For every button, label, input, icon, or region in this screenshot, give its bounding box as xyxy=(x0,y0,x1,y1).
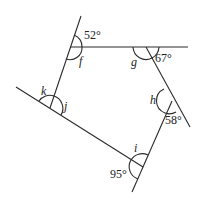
line-left-upper xyxy=(50,16,81,108)
label-67: 67° xyxy=(155,51,172,65)
label-g: g xyxy=(131,55,137,69)
label-95: 95° xyxy=(110,167,127,181)
line-bottom-long xyxy=(16,87,143,167)
angle-arc-h xyxy=(156,89,165,113)
label-58: 58° xyxy=(165,113,182,127)
label-f: f xyxy=(79,54,84,68)
pentagon-diagram: 52° f g 67° h 58° i 95° k j xyxy=(0,0,200,206)
label-k: k xyxy=(41,84,47,98)
label-i: i xyxy=(134,141,137,155)
label-h: h xyxy=(150,93,156,107)
label-52: 52° xyxy=(84,28,101,42)
angle-arc-52 xyxy=(74,35,82,47)
